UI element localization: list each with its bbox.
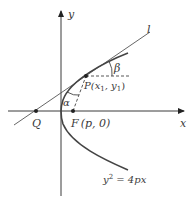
beta-label: β (113, 62, 120, 75)
tangent-line-label: l (147, 23, 151, 36)
angle-beta-arc (109, 61, 112, 76)
x-axis-label: x (180, 117, 187, 130)
focus-f: F (70, 117, 79, 130)
point-f (71, 109, 75, 113)
point-p (84, 74, 88, 78)
equation-label: y2 = 4px (102, 173, 147, 185)
focus-label: F(p, 0) (70, 117, 110, 130)
point-q-label: Q (32, 117, 41, 130)
parabola-reflection-diagram: y x l β α P(x1, y1) Q F(p, 0) y2 = 4px (0, 0, 195, 204)
point-p-end: ) (121, 80, 125, 91)
equation-rest: = 4px (113, 174, 147, 185)
focus-coords: (p, 0) (81, 117, 111, 130)
y-axis-label: y (67, 8, 75, 21)
point-p-label: P(x1, y1) (83, 80, 125, 93)
point-p-label-start: P(x (83, 80, 101, 91)
alpha-label-text: α (63, 97, 70, 108)
point-p-mid: , y (105, 80, 117, 91)
angle-alpha-arc (67, 92, 79, 95)
point-q (34, 109, 38, 113)
